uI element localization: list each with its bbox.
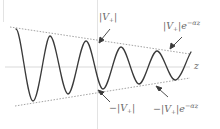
arrow-upper-envelope [170, 37, 182, 49]
z-axis-label: z [194, 62, 199, 71]
label-lower-envelope: −|V+|e−αz [153, 103, 198, 115]
label-upper-amplitude: |V+| [99, 12, 117, 23]
label-lower-amplitude: −|V+| [109, 103, 135, 114]
arrow-upper-amplitude [99, 29, 110, 43]
arrow-lower-amplitude [98, 90, 110, 102]
label-upper-envelope: |V+|e−αz [163, 20, 200, 32]
arrow-lower-envelope [156, 86, 168, 97]
